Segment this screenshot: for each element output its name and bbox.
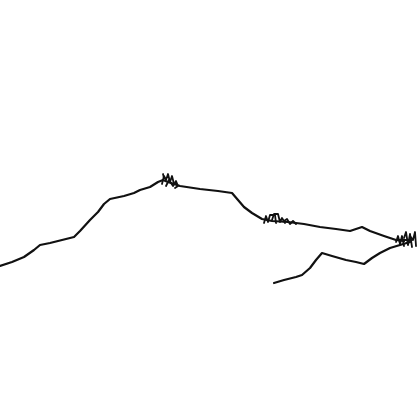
sketch-canvas	[0, 0, 420, 417]
background	[0, 0, 420, 417]
scribble-stroke	[163, 174, 164, 178]
